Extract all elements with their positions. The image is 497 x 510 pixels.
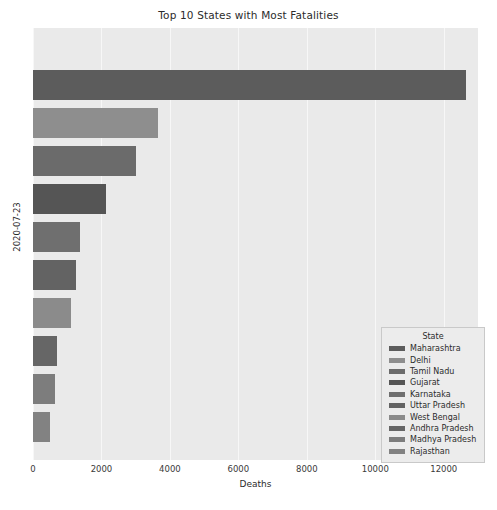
bar-madhya-pradesh (33, 374, 55, 404)
legend-item[interactable]: Tamil Nadu (387, 366, 479, 377)
legend-item[interactable]: Gujarat (387, 377, 479, 388)
legend-swatch-icon (389, 415, 405, 420)
legend-label: Gujarat (410, 377, 440, 388)
chart-title: Top 10 States with Most Fatalities (0, 9, 497, 21)
legend-label: Andhra Pradesh (410, 423, 474, 434)
legend-swatch-icon (389, 380, 405, 385)
legend-label: Tamil Nadu (410, 366, 454, 377)
legend-swatch-icon (389, 449, 405, 454)
y-axis-label: 2020-07-23 (12, 187, 22, 267)
legend-label: Karnataka (410, 389, 451, 400)
legend-label: Maharashtra (410, 343, 461, 354)
bar-delhi (33, 108, 158, 138)
legend-item[interactable]: Rajasthan (387, 446, 479, 457)
bar-west-bengal (33, 298, 71, 328)
bar-uttar-pradesh (33, 260, 76, 290)
legend-swatch-icon (389, 437, 405, 442)
legend-label: Rajasthan (410, 446, 450, 457)
legend-swatch-icon (389, 369, 405, 374)
legend-item[interactable]: Uttar Pradesh (387, 400, 479, 411)
legend-label: Uttar Pradesh (410, 400, 465, 411)
legend-label: Madhya Pradesh (410, 434, 476, 445)
legend-label: Delhi (410, 355, 431, 366)
legend-item[interactable]: Delhi (387, 354, 479, 365)
legend-swatch-icon (389, 403, 405, 408)
bar-maharashtra (33, 70, 466, 100)
legend-item[interactable]: Maharashtra (387, 343, 479, 354)
bar-andhra-pradesh (33, 336, 57, 366)
x-tick-label-4000: 4000 (159, 464, 181, 474)
legend: State MaharashtraDelhiTamil NaduGujaratK… (381, 327, 485, 463)
x-tick-label-10000: 10000 (362, 464, 389, 474)
x-tick-label-0: 0 (30, 464, 35, 474)
legend-swatch-icon (389, 346, 405, 351)
legend-entries: MaharashtraDelhiTamil NaduGujaratKarnata… (387, 343, 479, 457)
x-tick-label-12000: 12000 (430, 464, 457, 474)
legend-item[interactable]: West Bengal (387, 411, 479, 422)
legend-item[interactable]: Karnataka (387, 389, 479, 400)
legend-title: State (387, 332, 479, 341)
bar-karnataka (33, 222, 80, 252)
bar-rajasthan (33, 412, 50, 442)
legend-item[interactable]: Madhya Pradesh (387, 434, 479, 445)
chart-figure: Top 10 States with Most Fatalities 02000… (0, 0, 497, 510)
legend-swatch-icon (389, 392, 405, 397)
x-tick-label-8000: 8000 (296, 464, 318, 474)
legend-swatch-icon (389, 358, 405, 363)
x-tick-label-2000: 2000 (91, 464, 113, 474)
bar-tamil-nadu (33, 146, 136, 176)
x-axis-label: Deaths (33, 479, 478, 489)
legend-swatch-icon (389, 426, 405, 431)
legend-item[interactable]: Andhra Pradesh (387, 423, 479, 434)
bar-gujarat (33, 184, 106, 214)
x-tick-label-6000: 6000 (228, 464, 250, 474)
legend-label: West Bengal (410, 412, 460, 423)
